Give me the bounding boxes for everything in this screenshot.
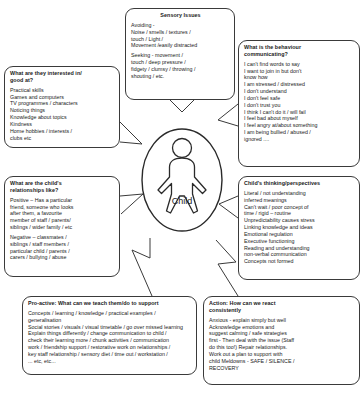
box-sensory-issues: Sensory Issues Avoiding - Noise / smells… (125, 8, 235, 100)
connector-behaviour (218, 104, 238, 126)
child-centre-graphic (141, 128, 223, 232)
box-relationships-title: What are the child's relationships like? (10, 180, 115, 194)
box-relationships-text-1: Negative – classmates / siblings / staff… (10, 234, 115, 261)
box-proactive-support: Pro-active: What can we teach them/do to… (22, 296, 197, 375)
box-sensory-text-1: Seeking - movement / touch / deep pressu… (131, 52, 230, 79)
box-interests-strengths: What are they interested in/ good at? Pr… (4, 66, 120, 148)
connector-sensory (170, 100, 194, 112)
child-label: Child (141, 196, 223, 206)
box-sensory-title: Sensory Issues (131, 12, 230, 19)
diagram-canvas: Sensory Issues Avoiding - Noise / smells… (0, 0, 363, 405)
box-sensory-text-0: Avoiding - Noise / smells / textures / t… (131, 22, 230, 49)
connector-action (216, 240, 238, 296)
box-child-thinking: Child's thinking/perspectives Literal / … (238, 176, 360, 280)
box-thinking-text-0: Literal / not understanding inferred mea… (244, 190, 355, 265)
box-thinking-title: Child's thinking/perspectives (244, 180, 355, 187)
box-behaviour-text-0: I can't find words to say I want to join… (244, 61, 355, 143)
box-proactive-text-0: Concepts / learning / knowledge / practi… (28, 310, 192, 365)
box-interests-text-0: Practical skills Games and computers TV … (10, 87, 115, 142)
connector-interests (120, 122, 142, 144)
box-proactive-title: Pro-active: What can we teach them/do to… (28, 300, 192, 307)
box-behaviour-title: What is the behaviour communicating? (244, 44, 355, 58)
box-action-title: Action: How can we react consistently (209, 300, 355, 314)
box-action-react: Action: How can we react consistently An… (203, 296, 360, 385)
connector-relationships (120, 194, 143, 214)
connector-proactive (132, 238, 152, 296)
box-relationships: What are the child's relationships like?… (4, 176, 120, 277)
box-behaviour-communicating: What is the behaviour communicating? I c… (238, 40, 360, 167)
box-relationships-text-0: Positive – Has a particular friend, some… (10, 197, 115, 231)
box-interests-title: What are they interested in/ good at? (10, 70, 115, 84)
box-action-text-0: Anxious - explain simply but well Acknow… (209, 317, 355, 372)
